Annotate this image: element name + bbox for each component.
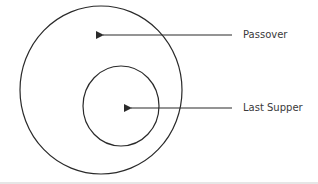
label-passover: Passover xyxy=(243,30,287,40)
label-last-supper: Last Supper xyxy=(243,103,303,113)
nested-circles-diagram xyxy=(0,0,318,184)
diagram-canvas: Passover Last Supper xyxy=(0,0,318,184)
inner-circle-last-supper xyxy=(83,66,159,146)
outer-circle-passover xyxy=(20,6,182,174)
bottom-border xyxy=(0,182,318,184)
